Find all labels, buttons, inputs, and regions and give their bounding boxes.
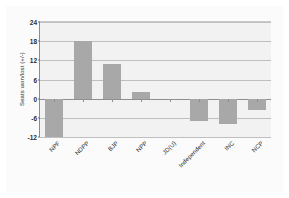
x-tick-mark-1 <box>83 99 84 102</box>
y-tick-mark-24 <box>38 22 40 23</box>
bar-bjp <box>103 64 121 99</box>
x-axis-label-npf: NPF <box>49 140 62 153</box>
y-tick-mark--12 <box>38 137 40 138</box>
x-axis-label-ndpp: NDPP <box>74 140 90 156</box>
y-tick-mark-12 <box>38 60 40 61</box>
y-tick-label-0: 0 <box>33 95 37 102</box>
gridline--12 <box>40 137 271 138</box>
bar-ndpp <box>74 41 92 99</box>
x-tick-mark-0 <box>54 99 55 102</box>
y-tick-label-24: 24 <box>30 19 37 26</box>
bar-independent <box>190 99 208 121</box>
x-axis-label-bjp: BJP <box>107 140 119 152</box>
x-tick-mark-5 <box>199 99 200 102</box>
x-tick-mark-2 <box>112 99 113 102</box>
x-tick-mark-4 <box>170 99 171 102</box>
gridline-24 <box>40 22 271 23</box>
bar-npf <box>45 99 63 137</box>
y-axis-title: Seats won/lost (+/-) <box>19 24 25 134</box>
bar-inc <box>219 99 237 125</box>
y-tick-mark-18 <box>38 41 40 42</box>
x-axis-label-inc: INC <box>223 140 235 152</box>
x-axis-label-independent: Independent <box>177 140 206 169</box>
y-tick-mark-6 <box>38 79 40 80</box>
bar-chart-figure: Seats won/lost (+/-) 24181260-6-12 NPFND… <box>0 0 289 198</box>
x-axis-label-npp: NPP <box>135 140 148 153</box>
y-tick-label--6: -6 <box>31 114 37 121</box>
x-axis-label-jd-u-: JD(U) <box>162 140 178 156</box>
x-axis-label-group: NPFNDPPBJPNPPJD(U)IndependentINCNCP <box>39 140 271 194</box>
x-axis-label-ncp: NCP <box>250 140 263 153</box>
plot-area: 24181260-6-12 <box>39 21 271 137</box>
y-tick-label--12: -12 <box>28 134 37 141</box>
y-tick-label-18: 18 <box>30 38 37 45</box>
x-tick-mark-6 <box>228 99 229 102</box>
x-tick-mark-3 <box>141 99 142 102</box>
y-tick-label-12: 12 <box>30 57 37 64</box>
y-tick-label-6: 6 <box>33 76 37 83</box>
x-tick-mark-7 <box>257 99 258 102</box>
y-tick-mark-0 <box>38 98 40 99</box>
y-tick-mark--6 <box>38 117 40 118</box>
